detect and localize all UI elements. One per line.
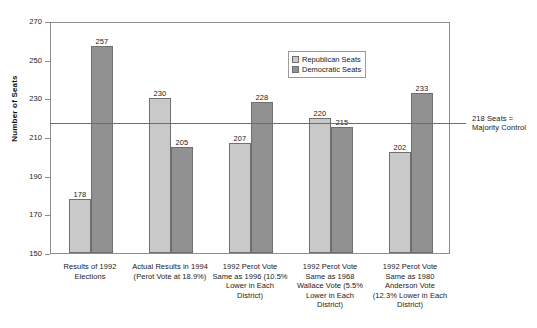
bar-democratic (251, 102, 273, 253)
y-tick-label: 190 (20, 173, 42, 181)
bar-republican (149, 98, 171, 253)
y-tick-label: 170 (20, 211, 42, 219)
legend-item-democratic-seats: Democratic Seats (292, 65, 361, 74)
bar-chart: Number of Seats 270250230210190170150 17… (0, 0, 537, 328)
bar-democratic (331, 127, 353, 253)
bar-value-label: 233 (405, 84, 439, 93)
legend-label-republican: Republican Seats (302, 55, 361, 64)
y-tick-label: 210 (20, 134, 42, 142)
majority-threshold-line (50, 123, 466, 124)
plot-area: 178257230205207228220215202233 (50, 22, 450, 254)
x-axis-category-label: 1992 Perot Vote Same as 1996 (10.5% Lowe… (204, 262, 296, 300)
bar-republican (69, 199, 91, 253)
y-tick-label: 270 (20, 18, 42, 26)
legend: Republican Seats Democratic Seats (288, 51, 366, 78)
bar-republican (389, 152, 411, 253)
y-tick-label: 230 (20, 95, 42, 103)
legend-swatch-icon-republican (292, 56, 299, 63)
x-axis-category-label: 1992 Perot Vote Same as 1980 Anderson Vo… (364, 262, 456, 310)
bar-value-label: 257 (85, 37, 119, 46)
bar-value-label: 205 (165, 138, 199, 147)
bar-republican (229, 143, 251, 253)
y-tick-label: 150 (20, 250, 42, 258)
x-axis-category-label: Results of 1992 Elections (44, 262, 136, 281)
legend-label-democratic: Democratic Seats (302, 65, 361, 74)
y-tick-mark (45, 254, 50, 255)
bar-value-label: 230 (143, 89, 177, 98)
bar-democratic (171, 147, 193, 253)
legend-swatch-icon-democratic (292, 66, 299, 73)
x-axis-category-label: 1992 Perot Vote Same as 1968 Wallace Vot… (284, 262, 376, 310)
bar-value-label: 228 (245, 93, 279, 102)
y-axis-title: Number of Seats (10, 64, 19, 154)
bar-value-label: 220 (303, 109, 337, 118)
bar-democratic (411, 93, 433, 253)
bar-republican (309, 118, 331, 253)
majority-threshold-label: 218 Seats = Majority Control (472, 114, 526, 133)
x-axis-category-label: Actual Results in 1994 (Perot Vote at 18… (124, 262, 216, 281)
legend-item-republican-seats: Republican Seats (292, 55, 361, 64)
bar-democratic (91, 46, 113, 253)
y-tick-label: 250 (20, 57, 42, 65)
